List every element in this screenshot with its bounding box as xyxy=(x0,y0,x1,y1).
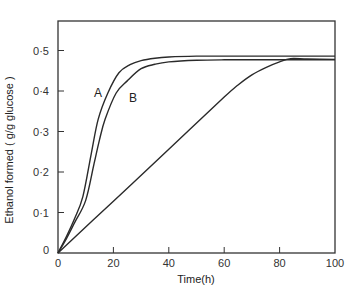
y-tick-label: 0·4 xyxy=(33,85,49,97)
x-tick-label: 80 xyxy=(273,257,285,269)
x-axis-label: Time(h) xyxy=(177,273,214,285)
x-tick-label: 60 xyxy=(218,257,230,269)
x-axis-ticks: 020406080100 xyxy=(55,247,344,269)
ethanol-chart: 020406080100 00·10·20·30·40·5 A B Time(h… xyxy=(0,0,353,298)
y-tick-label: 0·2 xyxy=(33,166,49,178)
y-tick-label: 0·5 xyxy=(33,45,49,57)
y-tick-label: 0·3 xyxy=(33,126,49,138)
x-tick-label: 100 xyxy=(326,257,344,269)
y-axis-ticks: 00·10·20·30·40·5 xyxy=(33,45,64,257)
x-tick-label: 20 xyxy=(107,257,119,269)
series-label-b: B xyxy=(129,91,137,105)
y-axis-label: Ethanol formed ( g/g glucose ) xyxy=(3,76,15,223)
y-tick-label: 0 xyxy=(43,244,49,256)
y-tick-label: 0·1 xyxy=(33,207,49,219)
x-tick-label: 40 xyxy=(163,257,175,269)
series-label-a: A xyxy=(94,86,102,100)
x-tick-label: 0 xyxy=(55,257,61,269)
